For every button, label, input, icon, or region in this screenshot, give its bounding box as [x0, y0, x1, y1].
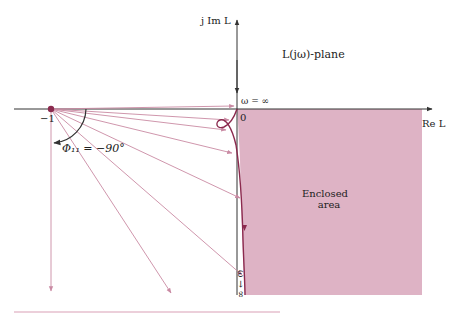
nyquist-diagram	[0, 0, 451, 318]
omega-inf-bottom-label: ω → ∞	[236, 270, 246, 298]
enclosed-area-label: Enclosed area	[302, 188, 348, 210]
minus-one-label: −1	[40, 113, 55, 124]
real-axis-label: Re L	[422, 118, 445, 129]
origin-label: 0	[240, 112, 246, 123]
plane-label: L(jω)-plane	[282, 48, 345, 61]
imag-axis-label: j Im L	[201, 15, 231, 26]
phase-vectors	[51, 106, 242, 293]
minus-one-point	[48, 106, 54, 112]
omega-inf-label: ω = ∞	[241, 96, 269, 106]
phase-label: Φ₁₁ = −90°	[62, 142, 125, 155]
